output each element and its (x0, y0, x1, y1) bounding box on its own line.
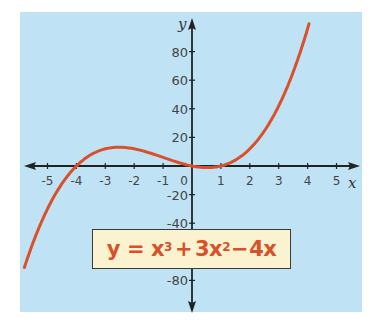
x-tick-label: 0 (180, 174, 188, 188)
x-tick-label: -1 (157, 174, 169, 188)
eq-term2: 3x (195, 237, 222, 261)
x-tick-label: 1 (217, 174, 225, 188)
x-tick-label: 5 (333, 174, 341, 188)
y-axis-label: y (177, 15, 187, 33)
x-tick-label: -3 (99, 174, 111, 188)
x-tick-label: 3 (275, 174, 283, 188)
x-tick-label: -5 (42, 174, 54, 188)
y-tick-label: 20 (171, 130, 188, 145)
y-tick-label: -80 (167, 273, 188, 288)
x-tick-label: -4 (70, 174, 82, 188)
x-tick-label: -2 (128, 174, 140, 188)
eq-exp2: 2 (222, 240, 230, 254)
y-tick-label: 60 (171, 73, 188, 88)
y-tick-label: -20 (167, 188, 188, 203)
eq-term1: x (151, 237, 164, 261)
eq-term3: 4x (249, 237, 276, 261)
eq-lhs: y (107, 237, 120, 261)
y-tick-label: 40 (171, 102, 188, 117)
equation-box: y = x3 + 3x2 − 4x (92, 229, 291, 269)
eq-exp1: 3 (164, 240, 172, 254)
x-tick-label: 4 (304, 174, 312, 188)
x-axis-label: x (348, 174, 357, 192)
eq-minus: − (231, 237, 248, 261)
cubic-graph: -5-4-3-2-101234580604020-20-40-80 x y (0, 0, 370, 331)
eq-plus: + (175, 237, 192, 261)
y-tick-label: 80 (171, 45, 188, 60)
eq-equals: = (127, 237, 144, 261)
x-tick-label: 2 (246, 174, 254, 188)
